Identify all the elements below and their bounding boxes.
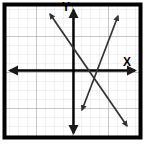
x-axis-label: X <box>123 55 131 69</box>
coordinate-plane-figure: Y X <box>0 0 146 146</box>
coordinate-plane-svg: Y X <box>0 0 146 146</box>
y-axis-label: Y <box>62 0 70 14</box>
